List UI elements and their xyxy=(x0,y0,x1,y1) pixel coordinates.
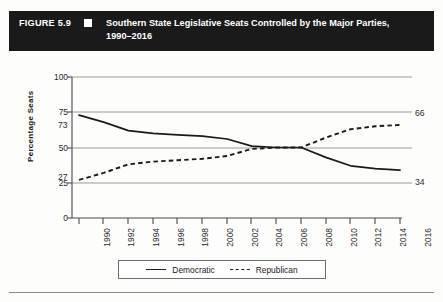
x-axis-ticks xyxy=(79,218,400,224)
x-tick-label-2004: 2004 xyxy=(275,228,283,247)
x-tick-label-1990: 1990 xyxy=(103,228,111,247)
white-square-icon xyxy=(84,19,92,27)
x-tick-label-2016: 2016 xyxy=(424,228,432,247)
x-tick-label-2014: 2014 xyxy=(399,228,407,247)
legend-label-democratic: Democratic xyxy=(172,265,214,275)
legend-item-republican: Republican xyxy=(230,265,298,275)
chart-legend: Democratic Republican xyxy=(118,260,326,279)
x-tick-label-2010: 2010 xyxy=(350,228,358,247)
annotation-republican-start: 27 xyxy=(58,172,68,182)
x-tick-label-2012: 2012 xyxy=(374,228,382,247)
x-tick-label-2002: 2002 xyxy=(251,228,259,247)
y-axis-ticks xyxy=(67,77,72,218)
figure-title: Southern State Legislative Seats Control… xyxy=(106,17,406,42)
x-tick-label-1994: 1994 xyxy=(152,228,160,247)
figure-title-banner: FIGURE 5.9 Southern State Legislative Se… xyxy=(9,11,434,51)
annotation-republican-end: 66 xyxy=(415,108,425,118)
x-tick-label-2000: 2000 xyxy=(226,228,234,247)
series-line-republican xyxy=(79,125,400,180)
legend-label-republican: Republican xyxy=(256,265,298,275)
series-line-democratic xyxy=(79,115,400,170)
annotation-democratic-end: 34 xyxy=(415,177,425,187)
figure-container: FIGURE 5.9 Southern State Legislative Se… xyxy=(0,0,443,302)
x-tick-label-1998: 1998 xyxy=(201,228,209,247)
bottom-divider xyxy=(9,292,434,293)
x-tick-label-1996: 1996 xyxy=(177,228,185,247)
x-tick-label-2006: 2006 xyxy=(300,228,308,247)
figure-number: FIGURE 5.9 xyxy=(19,17,71,28)
dashed-line-swatch-icon xyxy=(230,269,250,270)
x-tick-label-2008: 2008 xyxy=(325,228,333,247)
x-tick-label-1992: 1992 xyxy=(127,228,135,247)
legend-item-democratic: Democratic xyxy=(146,265,214,275)
solid-line-swatch-icon xyxy=(146,269,166,270)
annotation-democratic-start: 73 xyxy=(58,120,68,130)
